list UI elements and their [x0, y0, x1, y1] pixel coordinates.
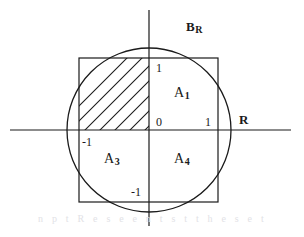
diagram-canvas: [0, 0, 304, 237]
scan-bleed-artifact: n p t R e s e e n t s t t h e s e t s: [38, 213, 266, 224]
figure-root: BR R 1 0 1 -1 -1 A1 A3 A4 n p t R e s e …: [0, 0, 304, 237]
